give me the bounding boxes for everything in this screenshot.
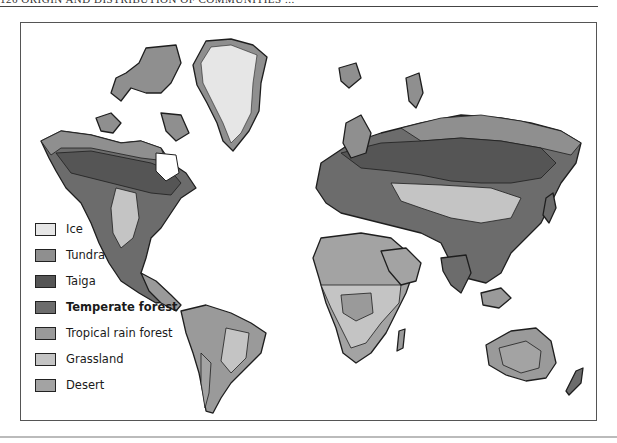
swatch-taiga xyxy=(35,275,56,288)
se-asia-islands xyxy=(481,288,511,308)
madagascar xyxy=(397,329,405,351)
swatch-desert xyxy=(35,379,56,392)
arctic-islands xyxy=(111,45,181,101)
footer-rule xyxy=(0,436,617,438)
header-rule xyxy=(0,6,598,7)
swatch-tundra xyxy=(35,249,56,262)
swatch-grassland xyxy=(35,353,56,366)
legend-label: Taiga xyxy=(66,274,96,288)
legend-item-taiga: Taiga xyxy=(35,268,178,294)
swatch-temperate-forest xyxy=(35,301,56,314)
swatch-ice xyxy=(35,223,56,236)
legend-label: Tropical rain forest xyxy=(66,326,173,340)
legend-label: Desert xyxy=(66,378,104,392)
legend-label: Grassland xyxy=(66,352,124,366)
scandinavia xyxy=(343,115,371,158)
india xyxy=(441,255,471,293)
new-zealand xyxy=(566,368,583,395)
map-figure: Ice Tundra Taiga Temperate forest Tropic… xyxy=(20,22,597,421)
novaya-zemlya xyxy=(406,73,423,108)
running-head: 126 ORIGIN AND DISTRIBUTION OF COMMUNITI… xyxy=(0,0,598,5)
svalbard xyxy=(339,63,361,88)
legend-item-grassland: Grassland xyxy=(35,346,178,372)
legend-label: Ice xyxy=(66,222,83,236)
legend-label: Tundra xyxy=(66,248,105,262)
legend-item-tropical-rain-forest: Tropical rain forest xyxy=(35,320,178,346)
legend-item-ice: Ice xyxy=(35,216,178,242)
map-legend: Ice Tundra Taiga Temperate forest Tropic… xyxy=(35,216,178,398)
legend-item-tundra: Tundra xyxy=(35,242,178,268)
legend-label: Temperate forest xyxy=(66,300,178,314)
legend-item-desert: Desert xyxy=(35,372,178,398)
legend-item-temperate-forest: Temperate forest xyxy=(35,294,178,320)
swatch-tropical-rain-forest xyxy=(35,327,56,340)
